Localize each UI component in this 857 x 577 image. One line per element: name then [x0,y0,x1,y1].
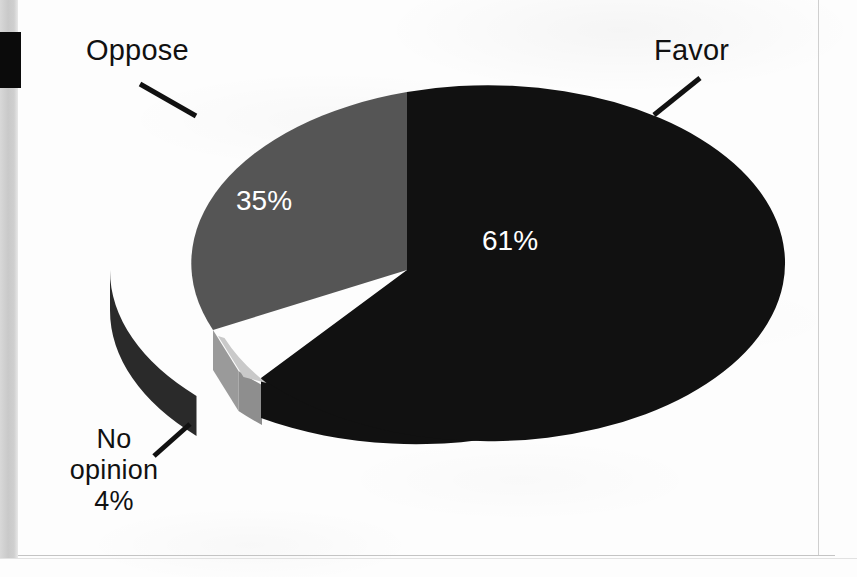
figure-page: Oppose Favor No opinion 4% 35% 61% [0,0,857,577]
callout-label-no-opinion: No opinion 4% [40,424,188,517]
callout-label-favor: Favor [654,34,729,67]
slice-side-oppose [110,270,197,436]
data-label-favor: 61% [482,225,538,257]
data-label-oppose: 35% [236,185,292,217]
leader-line-oppose [140,84,196,116]
leader-line-favor [654,78,700,115]
callout-label-no-opinion-line3: 4% [40,486,188,517]
callout-label-no-opinion-line2: opinion [40,455,188,486]
callout-label-oppose: Oppose [86,34,189,67]
callout-label-no-opinion-line1: No [40,424,188,455]
